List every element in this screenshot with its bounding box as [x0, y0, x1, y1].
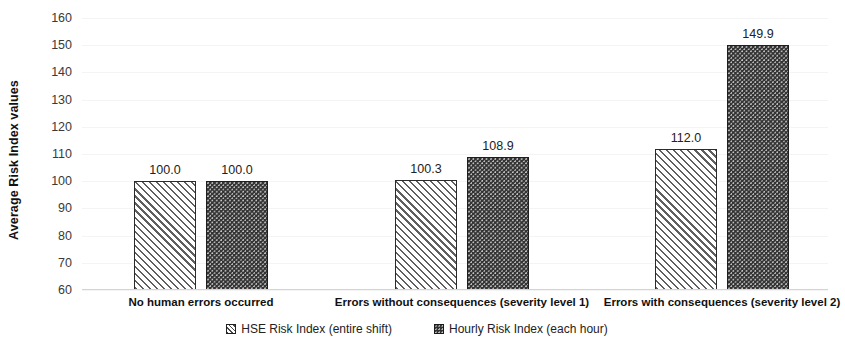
bar-hse-risk-index [134, 181, 196, 290]
bar-value-label: 112.0 [645, 132, 727, 145]
y-axis-tick-label: 130 [30, 93, 72, 106]
gridline [82, 100, 828, 101]
y-axis-tick-label: 80 [30, 229, 72, 242]
plot-area: 100.0100.0100.3108.9112.0149.9 [82, 18, 828, 290]
x-axis-line [82, 289, 828, 290]
x-axis-category-label: Errors without consequences (severity le… [312, 296, 612, 309]
gridline [82, 18, 828, 19]
y-axis-tick-label: 60 [30, 284, 72, 297]
gridline [82, 45, 828, 46]
y-axis-tick-label: 150 [30, 39, 72, 52]
y-axis-tick-label: 160 [30, 12, 72, 25]
y-axis-tick-labels: 16015014013012011010090807060 [30, 0, 78, 346]
bar-value-label: 108.9 [457, 140, 539, 153]
filled-square-icon [434, 324, 444, 334]
y-axis-tick-label: 120 [30, 121, 72, 134]
y-axis-title: Average Risk Index values [4, 60, 24, 260]
y-axis-tick-label: 140 [30, 66, 72, 79]
bar-value-label: 149.9 [717, 28, 799, 41]
hatch-square-icon [226, 324, 236, 334]
bar-hourly-risk-index [467, 157, 529, 290]
bar-hourly-risk-index [727, 45, 789, 290]
bar-hse-risk-index [395, 180, 457, 290]
legend-item[interactable]: Hourly Risk Index (each hour) [434, 322, 608, 336]
y-axis-tick-label: 110 [30, 148, 72, 161]
bar-hse-risk-index [655, 149, 717, 290]
legend-item-label: HSE Risk Index (entire shift) [241, 322, 392, 336]
legend-item[interactable]: HSE Risk Index (entire shift) [226, 322, 392, 336]
bar-hourly-risk-index [206, 181, 268, 290]
x-axis-category-label: Errors with consequences (severity level… [572, 296, 845, 309]
chart-legend: HSE Risk Index (entire shift)Hourly Risk… [0, 322, 834, 336]
y-axis-tick-label: 100 [30, 175, 72, 188]
legend-item-label: Hourly Risk Index (each hour) [449, 322, 608, 336]
bar-value-label: 100.0 [196, 164, 278, 177]
gridline [82, 72, 828, 73]
bar-value-label: 100.3 [385, 163, 467, 176]
y-axis-tick-label: 70 [30, 257, 72, 270]
x-axis-category-label: No human errors occurred [51, 296, 351, 309]
bar-value-label: 100.0 [124, 164, 206, 177]
gridline [82, 127, 828, 128]
y-axis-tick-label: 90 [30, 202, 72, 215]
y-axis-title-text: Average Risk Index values [7, 80, 21, 240]
gridline [82, 290, 828, 291]
